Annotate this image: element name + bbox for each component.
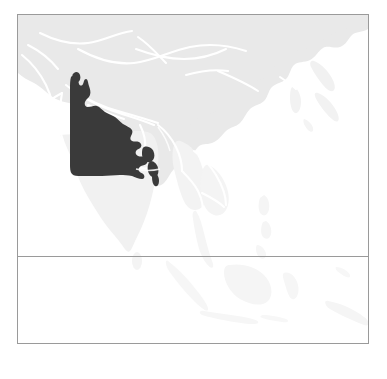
locator-map (18, 15, 368, 343)
map-frame (17, 14, 369, 344)
land-sri-lanka (132, 252, 142, 270)
panel-divider-line (18, 256, 368, 257)
figure-page (0, 0, 387, 379)
